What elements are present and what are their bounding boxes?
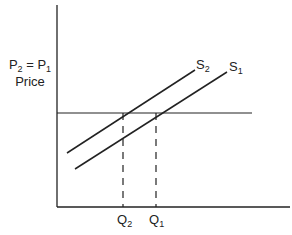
s1-label: S1 bbox=[229, 60, 243, 78]
supply-diagram bbox=[0, 0, 292, 235]
q1-label: Q1 bbox=[149, 213, 164, 231]
y-axis-label: Price bbox=[2, 75, 58, 89]
supply-curve-s1 bbox=[75, 72, 227, 169]
q2-label: Q2 bbox=[117, 213, 132, 231]
supply-curve-s2 bbox=[67, 70, 195, 153]
s2-label: S2 bbox=[196, 58, 210, 76]
